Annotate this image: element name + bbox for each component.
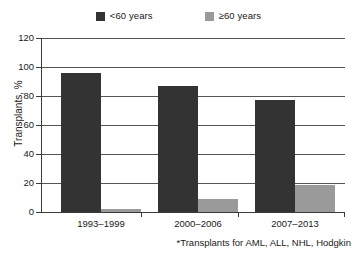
bar-old-2007-2013[interactable] [295, 185, 335, 211]
x-label-2007-2013: 2007–2013 [240, 218, 350, 229]
x-label-1993-1999: 1993–1999 [46, 218, 156, 229]
x-tick-mark-3 [344, 212, 345, 217]
y-tick-100: 100 [0, 62, 34, 72]
chart-legend: <60 years ≥60 years [0, 11, 357, 21]
y-tick-20: 20 [0, 178, 34, 188]
bar-chart: <60 years ≥60 years Transplants, % 120 1… [0, 0, 357, 253]
bar-plot-area [41, 38, 345, 212]
y-axis-labels: 120 100 80 60 40 20 0 [0, 0, 34, 253]
chart-footnote: *Transplants for AML, ALL, NHL, Hodgkin [177, 237, 351, 248]
y-tick-60: 60 [0, 120, 34, 130]
x-tick-mark-1 [141, 212, 142, 217]
legend-label-young: <60 years [110, 11, 153, 21]
y-tick-80: 80 [0, 91, 34, 101]
y-tick-120: 120 [0, 33, 34, 43]
x-axis-line [41, 212, 345, 213]
x-label-2000-2006: 2000–2006 [143, 218, 253, 229]
x-tick-mark-2 [238, 212, 239, 217]
bar-young-1993-1999[interactable] [61, 73, 101, 212]
y-tick-40: 40 [0, 149, 34, 159]
bar-young-2007-2013[interactable] [255, 100, 295, 211]
bar-young-2000-2006[interactable] [158, 86, 198, 212]
square-swatch-icon [205, 12, 214, 21]
bar-old-1993-1999[interactable] [101, 209, 141, 211]
y-tick-0: 0 [0, 207, 34, 217]
bar-old-2000-2006[interactable] [198, 199, 238, 212]
legend-item-young[interactable]: <60 years [96, 11, 153, 21]
legend-label-old: ≥60 years [219, 11, 262, 21]
legend-item-old[interactable]: ≥60 years [205, 11, 262, 21]
square-swatch-icon [96, 12, 105, 21]
